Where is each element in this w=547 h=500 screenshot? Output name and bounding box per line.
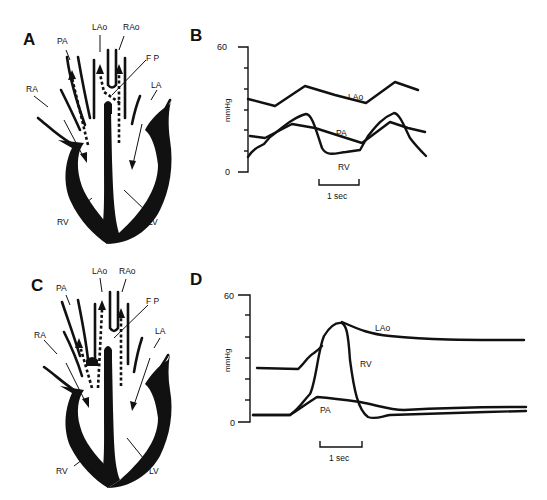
right-aorta-1 <box>108 50 116 88</box>
trace-lao <box>257 322 524 369</box>
septal-crest <box>104 101 112 114</box>
ytick-60: 60 <box>224 291 234 301</box>
y-axis-label: mmHg <box>223 348 232 372</box>
trace-label-rv: RV <box>360 359 372 369</box>
label-rao: RAo <box>123 22 140 32</box>
ytick-0: 0 <box>230 418 235 428</box>
chart-b: 60 0 mmHg LAo PA RV 1 sec <box>190 10 450 230</box>
trace-label-lao: LAo <box>348 92 363 102</box>
septum <box>101 112 120 244</box>
left-ventricle-wall <box>108 354 172 488</box>
label-fp: F P <box>146 296 160 306</box>
ytick-0: 0 <box>225 167 230 177</box>
trace-label-pa: PA <box>336 128 347 138</box>
arrowhead-ra <box>82 397 89 408</box>
panel-d: D 60 0 mmHg LAo RV PA 1 sec <box>190 270 547 480</box>
leader-rao <box>122 279 126 292</box>
septal-crest <box>104 346 112 362</box>
time-scale-label: 1 sec <box>327 191 348 201</box>
right-aorta-1 <box>110 292 118 331</box>
label-rao: RAo <box>119 266 136 276</box>
left-ventricle-wall <box>107 98 172 244</box>
time-scale-label: 1 sec <box>329 453 350 463</box>
panel-a: A P <box>0 0 200 250</box>
label-rv: RV <box>56 466 68 476</box>
arrowhead-lao <box>96 64 104 74</box>
label-lv: LV <box>148 217 158 227</box>
label-ra: RA <box>26 84 38 94</box>
leader-pa <box>66 295 70 305</box>
trace-label-lao: LAo <box>375 323 390 333</box>
label-ra: RA <box>34 330 46 340</box>
flow-arrow-la <box>133 124 142 164</box>
label-la: LA <box>151 80 162 90</box>
leader-lv <box>124 190 147 212</box>
arrowhead-ra <box>80 152 87 163</box>
panel-b: B 60 0 mmHg LAo PA RV 1 sec <box>190 10 450 230</box>
left-atrium-vessel <box>134 338 142 372</box>
leader-ra <box>34 96 48 107</box>
arrowhead-lao <box>98 300 106 310</box>
label-pa: PA <box>56 283 67 293</box>
ytick-60: 60 <box>217 42 227 52</box>
heart-diagram-a: PA LAo RAo F P RA LA RV LV <box>0 0 200 250</box>
leader-la <box>154 338 160 348</box>
chart-d: 60 0 mmHg LAo RV PA 1 sec <box>190 270 547 480</box>
left-atrium-vessel <box>132 96 140 124</box>
leader-ra <box>44 340 57 354</box>
arrowhead-la <box>129 160 136 170</box>
label-lao: LAo <box>92 266 107 276</box>
arrowhead-la <box>130 401 137 411</box>
label-rv: RV <box>57 217 69 227</box>
time-scale-bar <box>319 179 359 185</box>
trace-label-pa: PA <box>320 405 331 415</box>
trace-label-rv: RV <box>338 162 350 172</box>
trace-lao <box>248 82 418 106</box>
right-atrium-inlet <box>38 118 72 144</box>
septum <box>101 360 120 488</box>
label-lv: LV <box>149 466 159 476</box>
label-la: LA <box>155 326 166 336</box>
heart-diagram-c: PA LAo RAo F P RA LA RV LV <box>0 260 200 500</box>
label-fp: F P <box>146 53 160 63</box>
label-lao: LAo <box>92 22 107 32</box>
y-axis-label: mmHg <box>223 98 232 122</box>
leader-lao <box>100 278 102 292</box>
leader-rao <box>119 36 124 50</box>
leader-lv <box>127 438 148 464</box>
label-pa: PA <box>57 36 68 46</box>
time-scale-bar <box>320 441 362 447</box>
flow-arrow-lao <box>98 310 102 388</box>
panel-c: C PA LAo RAo F P <box>0 260 200 500</box>
leader-la <box>151 90 157 100</box>
